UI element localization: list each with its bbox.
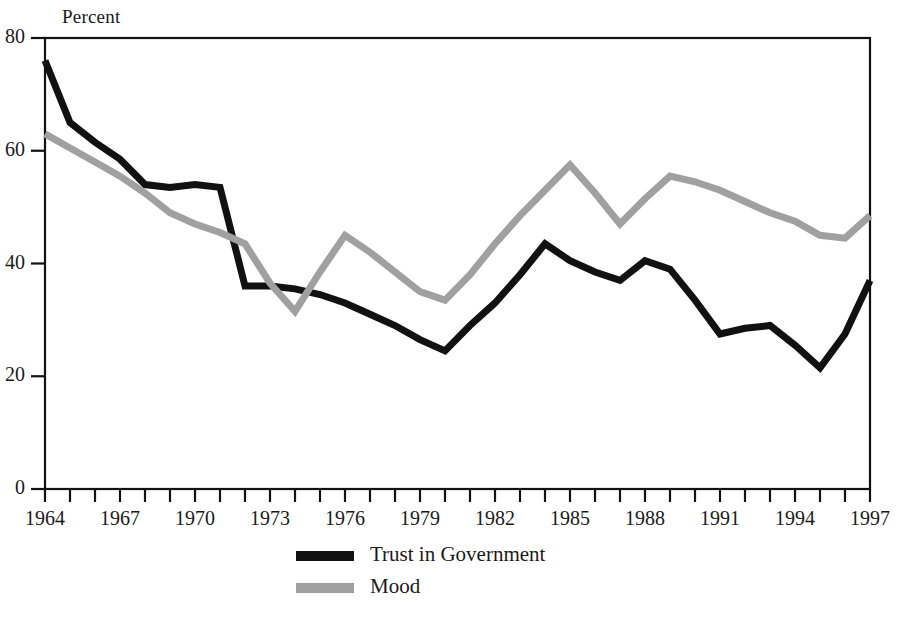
x-tick-label-1970: 1970 [155, 507, 235, 530]
legend-label-1: Mood [370, 574, 420, 599]
series-lines [45, 61, 870, 368]
legend-swatch-1 [296, 583, 354, 593]
y-axis-tick-marks [31, 38, 45, 489]
x-tick-label-1997: 1997 [830, 507, 902, 530]
y-tick-label-20: 20 [0, 363, 25, 386]
y-tick-label-0: 0 [0, 476, 25, 499]
y-tick-label-40: 40 [0, 251, 25, 274]
x-tick-label-1991: 1991 [680, 507, 760, 530]
x-tick-label-1967: 1967 [80, 507, 160, 530]
series-line-1 [45, 134, 870, 312]
x-tick-label-1964: 1964 [5, 507, 85, 530]
legend-swatches [296, 551, 354, 593]
y-tick-label-60: 60 [0, 138, 25, 161]
x-axis-minor-ticks [45, 489, 870, 502]
x-tick-label-1973: 1973 [230, 507, 310, 530]
x-tick-label-1985: 1985 [530, 507, 610, 530]
line-chart-plot [0, 0, 902, 625]
chart-figure: Percent 020406080 1964196719701973197619… [0, 0, 902, 625]
x-tick-label-1976: 1976 [305, 507, 385, 530]
axis-frame [45, 38, 870, 489]
x-tick-label-1988: 1988 [605, 507, 685, 530]
legend-label-0: Trust in Government [370, 542, 545, 567]
x-tick-label-1982: 1982 [455, 507, 535, 530]
x-tick-label-1979: 1979 [380, 507, 460, 530]
legend-swatch-0 [296, 551, 354, 561]
y-tick-label-80: 80 [0, 25, 25, 48]
x-tick-label-1994: 1994 [755, 507, 835, 530]
axis-frame-box [45, 38, 870, 489]
